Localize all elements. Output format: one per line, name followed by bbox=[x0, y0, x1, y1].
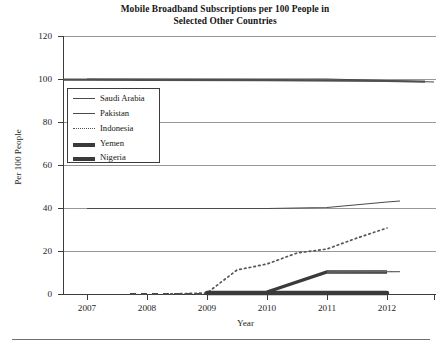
series-band-upper bbox=[63, 80, 425, 82]
legend-label-indonesia: Indonesia bbox=[100, 123, 133, 133]
x-axis-label: Year bbox=[63, 318, 428, 328]
ytick-label-20: 20 bbox=[18, 246, 52, 256]
ytick-label-120: 120 bbox=[18, 31, 52, 41]
series-line-yemen bbox=[267, 272, 387, 292]
legend-item-pakistan[interactable]: Pakistan bbox=[72, 106, 158, 120]
legend-item-nigeria[interactable]: Nigeria bbox=[72, 150, 158, 164]
footer-divider bbox=[12, 339, 430, 340]
y-tick-marks bbox=[58, 37, 63, 295]
legend: Saudi Arabia Pakistan Indonesia Yemen Ni… bbox=[67, 88, 160, 163]
xtick-label-2009: 2009 bbox=[184, 303, 230, 313]
legend-swatch-dotted-icon bbox=[72, 122, 96, 134]
ytick-label-40: 40 bbox=[18, 203, 52, 213]
x-tick-marks bbox=[88, 295, 435, 301]
legend-label-yemen: Yemen bbox=[100, 138, 124, 148]
ytick-label-80: 80 bbox=[18, 117, 52, 127]
legend-item-indonesia[interactable]: Indonesia bbox=[72, 121, 158, 135]
xtick-label-2007: 2007 bbox=[64, 303, 110, 313]
xtick-label-2011: 2011 bbox=[304, 303, 350, 313]
xtick-label-2008: 2008 bbox=[124, 303, 170, 313]
y-axis-label: Per 100 People bbox=[13, 107, 23, 207]
figure: Mobile Broadband Subscriptions per 100 P… bbox=[0, 0, 442, 348]
series-line-saudi-arabia bbox=[87, 201, 400, 209]
legend-swatch-thick-solid-icon bbox=[72, 137, 96, 149]
legend-label-nigeria: Nigeria bbox=[100, 152, 126, 162]
xtick-label-2010: 2010 bbox=[244, 303, 290, 313]
series-line-indonesia bbox=[166, 228, 387, 294]
legend-item-saudi-arabia[interactable]: Saudi Arabia bbox=[72, 91, 158, 105]
legend-label-pakistan: Pakistan bbox=[100, 108, 129, 118]
legend-swatch-thin-solid-icon bbox=[72, 92, 96, 104]
xtick-label-2012: 2012 bbox=[364, 303, 410, 313]
legend-swatch-thick-solid-icon bbox=[72, 151, 96, 163]
plot-area bbox=[0, 0, 442, 348]
legend-label-saudi-arabia: Saudi Arabia bbox=[100, 93, 145, 103]
legend-swatch-thin-solid-icon bbox=[72, 107, 96, 119]
legend-item-yemen[interactable]: Yemen bbox=[72, 136, 158, 150]
ytick-label-60: 60 bbox=[18, 160, 52, 170]
ytick-label-100: 100 bbox=[18, 74, 52, 84]
ytick-label-0: 0 bbox=[18, 289, 52, 299]
